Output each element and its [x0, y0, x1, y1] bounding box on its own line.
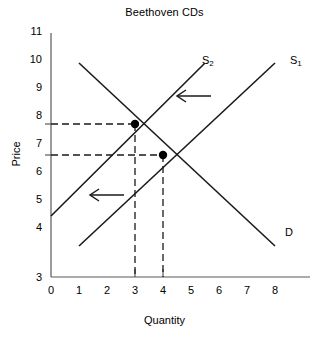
shift-arrow-lower [90, 189, 124, 201]
supply-curve-s2 [51, 63, 205, 216]
equilibrium-point-2 [131, 120, 139, 128]
plot-area [0, 0, 329, 338]
chart-container: Beethoven CDs Price Quantity 11 10 9 8 7… [0, 0, 329, 338]
equilibrium-point-1 [159, 151, 167, 159]
shift-arrow-upper [177, 90, 211, 102]
